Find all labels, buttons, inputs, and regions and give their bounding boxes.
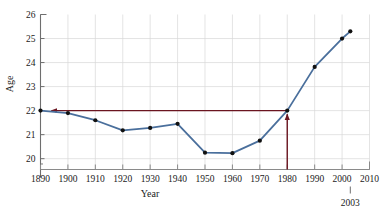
- data-point-marker: [38, 109, 42, 113]
- x-tick-label: 1890: [31, 174, 50, 184]
- y-tick-label: 23: [26, 82, 36, 92]
- data-point-marker: [285, 109, 289, 113]
- x-axis-title: Year: [141, 188, 160, 199]
- x-tick-label: 1930: [141, 174, 160, 184]
- y-tick-label: 26: [26, 10, 36, 20]
- data-point-marker: [93, 118, 97, 122]
- x-tick-label: 2000: [333, 174, 352, 184]
- x-tick-label: 1900: [58, 174, 77, 184]
- x-tick-label: 1960: [223, 174, 242, 184]
- y-tick-label: 20: [26, 154, 36, 164]
- y-tick-label: 25: [26, 34, 36, 44]
- data-point-marker: [148, 126, 152, 130]
- y-axis-title: Age: [4, 75, 15, 92]
- data-point-marker: [258, 139, 262, 143]
- x-tick-label: 1920: [113, 174, 132, 184]
- y-tick-label: 21: [26, 130, 36, 140]
- data-point-marker: [340, 36, 344, 40]
- data-point-marker: [203, 151, 207, 155]
- y-tick-label: 22: [26, 106, 36, 116]
- data-point-marker: [121, 128, 125, 132]
- data-point-marker: [348, 29, 352, 33]
- x-tick-label: 1980: [278, 174, 297, 184]
- x-tick-label: 1910: [86, 174, 105, 184]
- data-point-marker: [230, 151, 234, 155]
- chart-container: 1890190019101920193019401950196019701980…: [0, 0, 381, 214]
- x-tick-label: 1970: [250, 174, 269, 184]
- x-tick-label: 1950: [196, 174, 215, 184]
- data-point-marker: [66, 111, 70, 115]
- year-2003-callout: 2003: [341, 198, 360, 208]
- line-chart: 1890190019101920193019401950196019701980…: [0, 0, 381, 214]
- data-point-marker: [313, 65, 317, 69]
- x-tick-label: 1990: [305, 174, 324, 184]
- data-point-marker: [175, 122, 179, 126]
- x-tick-label: 2010: [360, 174, 379, 184]
- x-tick-label: 1940: [168, 174, 187, 184]
- y-tick-label: 24: [26, 58, 36, 68]
